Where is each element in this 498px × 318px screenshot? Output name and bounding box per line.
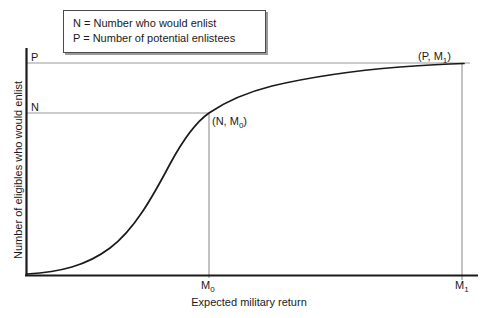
chart-figure: Number of eligibles who would enlist Exp… — [0, 0, 498, 318]
x-tick-label-m1: M1 — [455, 279, 469, 291]
annotation-point-n-m0: (N, M0) — [212, 115, 247, 127]
y-tick-label-p: P — [31, 51, 38, 63]
annotation-n-m0-close: ) — [243, 115, 247, 127]
y-axis-title: Number of eligibles who would enlist — [12, 80, 24, 260]
x-tick-m0-base: M — [201, 279, 210, 291]
annotation-p-m1-open: (P, M — [418, 50, 443, 62]
legend-box: N = Number who would enlist P = Number o… — [63, 10, 266, 53]
x-tick-label-m0: M0 — [201, 279, 215, 291]
x-tick-m1-subscript: 1 — [464, 285, 468, 294]
legend-row-n: N = Number who would enlist — [73, 16, 256, 31]
x-tick-m0-subscript: 0 — [210, 285, 214, 294]
supply-curve — [27, 64, 464, 275]
legend-row-p: P = Number of potential enlistees — [73, 31, 256, 46]
annotation-point-p-m1: (P, M1) — [418, 50, 451, 62]
x-tick-m1-base: M — [455, 279, 464, 291]
annotation-p-m1-close: ) — [447, 50, 451, 62]
x-axis-title: Expected military return — [0, 296, 498, 308]
y-tick-label-n: N — [31, 101, 39, 113]
annotation-n-m0-open: (N, M — [212, 115, 239, 127]
